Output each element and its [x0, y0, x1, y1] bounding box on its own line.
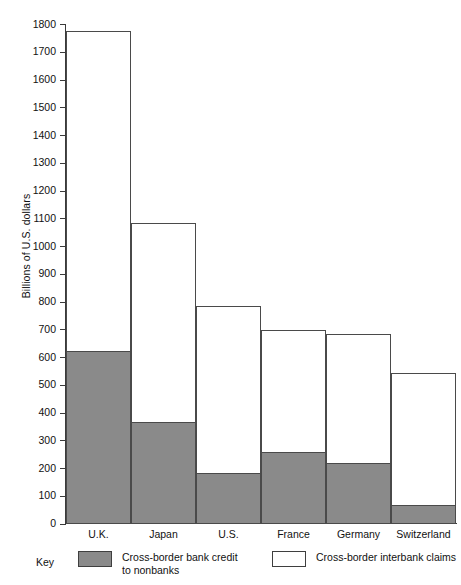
bar-segment-nonbanks [196, 473, 261, 524]
y-tick-label: 1200 [0, 185, 56, 195]
bar-segment-nonbanks [391, 505, 456, 524]
y-tick-label: 1600 [0, 74, 56, 84]
bar-germany [326, 334, 391, 524]
bar-france [261, 330, 326, 524]
bar-japan [131, 223, 196, 524]
legend-key-label: Key [36, 556, 54, 568]
y-tick-label: 1500 [0, 102, 56, 112]
legend-swatch-interbank [272, 551, 306, 567]
bar-segment-nonbanks [66, 351, 131, 524]
y-tick-label: 1100 [0, 213, 56, 223]
stacked-bar-chart: Billions of U.S. dollars 010020030040050… [0, 0, 461, 585]
bar-segment-nonbanks [261, 452, 326, 524]
y-tick-label: 100 [0, 490, 56, 500]
legend-swatch-nonbanks [78, 551, 112, 567]
bar-segment-nonbanks [326, 463, 391, 524]
bar-segment-nonbanks [131, 422, 196, 524]
y-tick-label: 700 [0, 324, 56, 334]
legend-label-nonbanks-line1: Cross-border bank credit [122, 551, 238, 563]
y-tick-label: 400 [0, 407, 56, 417]
y-tick-label: 0 [0, 518, 56, 528]
y-tick-label: 1300 [0, 157, 56, 167]
bar-uk [66, 31, 131, 524]
legend-label-nonbanks-line2: to nonbanks [122, 564, 179, 576]
y-tick-label: 600 [0, 352, 56, 362]
bar-switzerland [391, 373, 456, 524]
x-label-switzerland: Switzerland [379, 528, 461, 540]
y-tick-label: 1800 [0, 19, 56, 29]
y-tick-label: 1000 [0, 241, 56, 251]
y-tick-label: 1400 [0, 130, 56, 140]
bar-us [196, 306, 261, 524]
y-tick-label: 900 [0, 268, 56, 278]
plot-area [66, 24, 455, 524]
y-tick-label: 200 [0, 463, 56, 473]
legend-label-interbank: Cross-border interbank claims [316, 551, 461, 564]
y-tick-label: 1700 [0, 46, 56, 56]
y-tick-label: 500 [0, 379, 56, 389]
y-tick-label: 300 [0, 435, 56, 445]
y-tick-label: 800 [0, 296, 56, 306]
